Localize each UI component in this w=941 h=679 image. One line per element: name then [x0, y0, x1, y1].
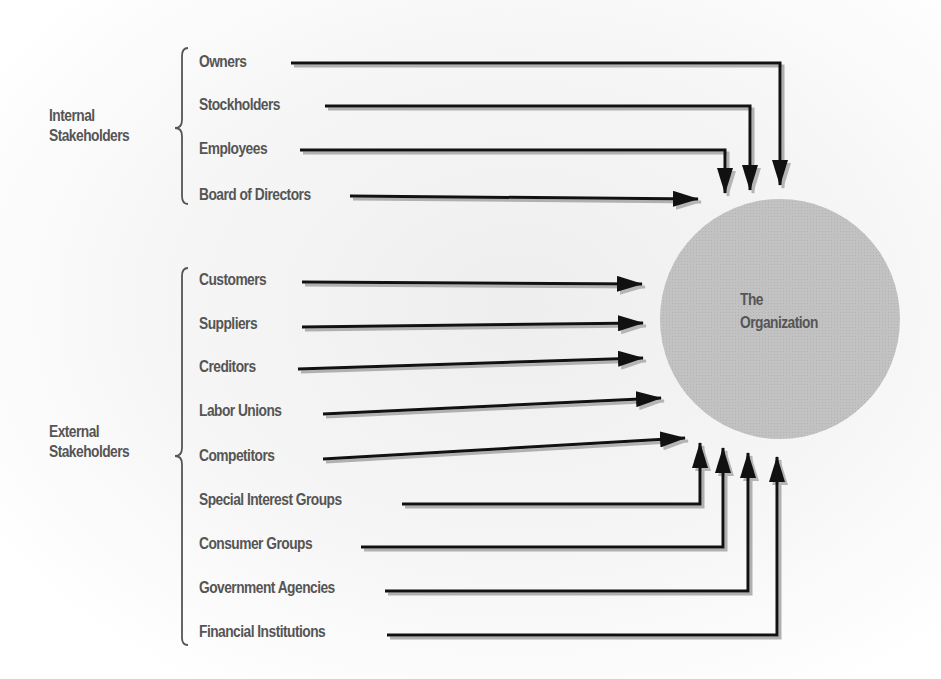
stakeholder-board-of-directors: Board of Directors	[199, 185, 311, 205]
organization-label-line2: Organization	[740, 311, 818, 334]
stakeholder-special-interest-groups: Special Interest Groups	[199, 490, 342, 510]
stakeholder-financial-institutions: Financial Institutions	[199, 622, 325, 642]
arrow-shadow	[326, 441, 688, 462]
arrow-stockholders	[325, 106, 750, 190]
external-brace	[175, 268, 188, 645]
arrow-labor-unions	[323, 398, 661, 414]
arrow-shadow	[364, 451, 726, 550]
arrow-shadow	[305, 285, 645, 287]
internal-label-line1: Internal	[49, 106, 129, 126]
arrow-government-agencies	[385, 453, 748, 591]
internal-label-line2: Stakeholders	[49, 126, 129, 146]
stakeholder-labor-unions: Labor Unions	[199, 401, 281, 421]
stakeholder-stockholders: Stockholders	[199, 95, 280, 115]
organization-label-line1: The	[740, 288, 818, 311]
external-label-line1: External	[49, 422, 129, 442]
stakeholder-employees: Employees	[199, 139, 267, 159]
arrow-customers	[302, 282, 642, 284]
stakeholder-government-agencies: Government Agencies	[199, 578, 335, 598]
internal-stakeholders-label: Internal Stakeholders	[49, 106, 129, 146]
group-braces	[175, 48, 188, 645]
stakeholder-creditors: Creditors	[199, 357, 256, 377]
arrow-shadow	[294, 66, 783, 188]
arrow-shadow	[303, 153, 728, 196]
internal-brace	[175, 48, 188, 204]
external-stakeholders-label: External Stakeholders	[49, 422, 129, 462]
arrow-employees	[300, 150, 725, 193]
stakeholder-customers: Customers	[199, 270, 266, 290]
stakeholder-owners: Owners	[199, 52, 246, 72]
arrow-owners	[291, 63, 780, 185]
stakeholder-diagram	[0, 0, 941, 679]
arrow-consumer-groups	[361, 448, 723, 547]
external-label-line2: Stakeholders	[49, 442, 129, 462]
arrow-shadow	[326, 401, 664, 417]
stakeholder-suppliers: Suppliers	[199, 314, 257, 334]
stakeholder-consumer-groups: Consumer Groups	[199, 534, 312, 554]
arrow-shadow	[388, 456, 751, 594]
stakeholder-competitors: Competitors	[199, 446, 274, 466]
arrow-competitors	[323, 438, 685, 459]
organization-label: The Organization	[740, 288, 818, 334]
